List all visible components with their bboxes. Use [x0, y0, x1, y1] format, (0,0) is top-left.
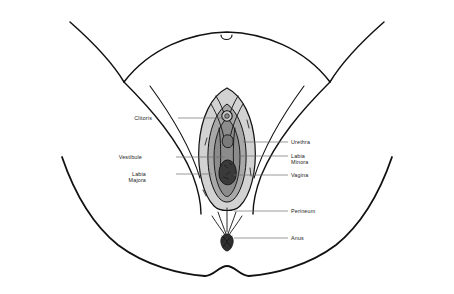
right-inner-thigh-line — [253, 82, 330, 214]
anatomy-illustration — [0, 0, 454, 294]
label-anus-line-0: Anus — [291, 235, 304, 241]
navel-mark-icon — [221, 35, 232, 40]
right-groin-crease — [330, 22, 384, 82]
label-urethra-line-0: Urethra — [291, 139, 310, 145]
label-labia-majora-line-1: Majora — [129, 177, 146, 183]
vulva-group — [199, 88, 256, 251]
label-anus: Anus — [291, 235, 304, 241]
left-thigh-crease — [150, 86, 200, 178]
label-labia-minora-line-1: Minora — [291, 159, 308, 165]
label-labia-minora: LabiaMinora — [291, 153, 308, 166]
label-labia-majora: LabiaMajora — [129, 171, 146, 184]
label-urethra: Urethra — [291, 139, 310, 145]
label-vestibule-line-0: Vestibule — [119, 154, 142, 160]
label-vagina: Vagina — [291, 172, 308, 178]
label-clitoris-line-0: Clitoris — [134, 115, 152, 121]
label-vagina-line-0: Vagina — [291, 172, 308, 178]
label-perineum: Perineum — [291, 208, 315, 214]
left-inner-thigh-line — [124, 82, 201, 214]
vaginal-opening-shape — [219, 160, 236, 185]
clitoral-glans-inner — [225, 114, 230, 119]
gluteal-fold — [205, 266, 249, 276]
urethral-opening-shape — [222, 135, 233, 148]
label-clitoris: Clitoris — [134, 115, 152, 121]
left-groin-crease — [70, 22, 124, 82]
label-vestibule: Vestibule — [119, 154, 142, 160]
label-perineum-line-0: Perineum — [291, 208, 315, 214]
perineum-shape — [212, 208, 242, 235]
anatomy-diagram: ClitorisVestibuleLabiaMajoraUrethraLabia… — [0, 0, 454, 294]
